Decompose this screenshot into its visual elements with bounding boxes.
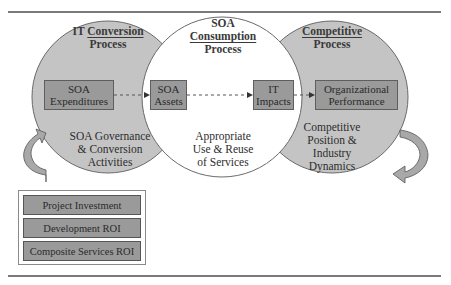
box-line: SOA: [68, 83, 90, 95]
legend-label: Composite Services ROI: [30, 246, 134, 257]
legend: Project Investment Development ROI Compo…: [18, 190, 146, 265]
box-line: Organizational: [324, 83, 389, 95]
title-line3: Process: [205, 43, 242, 55]
it-impacts-box: ITImpacts: [253, 80, 294, 110]
legend-item-development-roi: Development ROI: [23, 218, 141, 238]
curved-arrow-left-icon: [24, 129, 46, 182]
organizational-performance-box: OrganizationalPerformance: [315, 80, 398, 110]
soa-consumption-description: Appropriate Use & Reuse of Services: [173, 130, 273, 169]
box-line: IT: [268, 83, 278, 95]
title-line2: Process: [314, 38, 351, 50]
desc-line: Activities: [88, 156, 133, 168]
legend-label: Development ROI: [43, 223, 120, 234]
box-line: Performance: [328, 95, 384, 107]
legend-label: Project Investment: [42, 200, 121, 211]
desc-line: Dynamics: [309, 160, 356, 172]
desc-line: & Conversion: [78, 143, 143, 155]
box-line: Assets: [154, 95, 183, 107]
desc-line: Appropriate: [195, 130, 251, 142]
legend-item-composite-services-roi: Composite Services ROI: [23, 241, 141, 261]
desc-line: Use & Reuse: [193, 143, 254, 155]
title-underlined: Competitive: [302, 25, 362, 37]
soa-expenditures-box: SOAExpenditures: [44, 80, 114, 110]
desc-line: SOA Governance: [70, 130, 151, 142]
title-underlined: Conversion: [87, 25, 143, 37]
desc-line: Industry: [313, 147, 351, 159]
title-underlined: Consumption: [190, 30, 256, 42]
desc-line: Competitive: [304, 121, 361, 133]
box-line: Impacts: [256, 95, 291, 107]
competitive-title: Competitive Process: [290, 25, 374, 51]
legend-item-project-investment: Project Investment: [23, 195, 141, 215]
box-line: SOA: [157, 83, 179, 95]
title-prefix: IT: [72, 25, 87, 37]
title-line2: Process: [90, 38, 127, 50]
soa-assets-box: SOAAssets: [150, 80, 187, 110]
box-line: Expenditures: [50, 95, 108, 107]
desc-line: Position &: [307, 134, 357, 146]
competitive-description: Competitive Position & Industry Dynamics: [290, 121, 374, 173]
title-line1: SOA: [211, 17, 235, 29]
soa-consumption-title: SOA Consumption Process: [178, 17, 268, 56]
it-conversion-title: IT Conversion Process: [60, 25, 156, 51]
desc-line: of Services: [197, 156, 248, 168]
it-conversion-description: SOA Governance & Conversion Activities: [55, 130, 165, 169]
curved-arrow-right-icon: [393, 130, 428, 183]
